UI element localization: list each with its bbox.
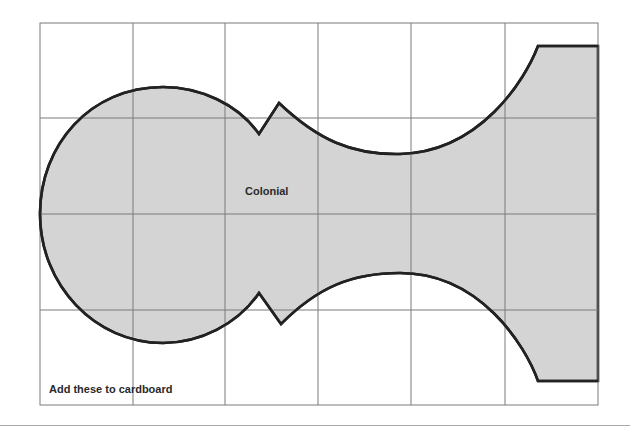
page-divider	[0, 425, 630, 426]
pattern-diagram	[0, 0, 630, 433]
instruction-note: Add these to cardboard	[49, 383, 172, 395]
grid	[40, 23, 598, 405]
shape-label: Colonial	[245, 185, 288, 197]
